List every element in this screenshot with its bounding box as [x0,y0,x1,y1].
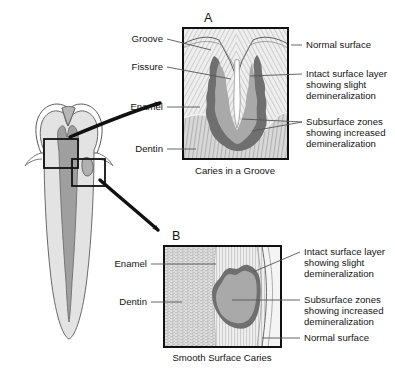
label-dentin-a: Dentin [135,143,163,154]
panel-a-fissure-overlay [234,60,240,127]
label-subsurface-b-line3: demineralization [304,316,374,327]
label-subsurface-a-line1: Subsurface zones [306,116,383,127]
label-intact-layer-a-line1: Intact surface layer [306,68,388,79]
panel-b-caption: Smooth Surface Caries [172,352,271,363]
label-enamel-b: Enamel [114,258,147,269]
panel-b-dentin [164,246,216,347]
label-enamel-a: Enamel [130,101,163,112]
label-subsurface-b-line2: showing increased [304,305,383,316]
panel-b-letter: B [172,229,180,243]
label-subsurface-a-line2: showing increased [306,127,385,138]
panel-a-artwork [183,28,288,159]
label-intact-layer-a-line3: demineralization [306,90,376,101]
panel-a-letter: A [204,11,213,25]
label-intact-layer-a-line2: showing slight [306,79,367,90]
label-subsurface-b-line1: Subsurface zones [304,294,381,305]
label-subsurface-a-line3: demineralization [306,138,376,149]
dental-caries-figure: A [0,0,395,372]
smooth-surface-caries-spot [82,157,93,176]
label-intact-layer-b-line3: demineralization [304,268,374,279]
label-fissure: Fissure [132,61,163,72]
label-dentin-b: Dentin [119,296,147,307]
figure-root: A [0,0,395,372]
label-intact-layer-b-line2: showing slight [304,257,365,268]
label-groove: Groove [132,33,163,44]
panel-b-artwork [164,246,281,347]
panel-a-caption: Caries in a Groove [195,165,275,176]
label-normal-surface-b: Normal surface [304,332,369,343]
label-intact-layer-b-line1: Intact surface layer [304,246,386,257]
label-normal-surface-a: Normal surface [306,39,371,50]
